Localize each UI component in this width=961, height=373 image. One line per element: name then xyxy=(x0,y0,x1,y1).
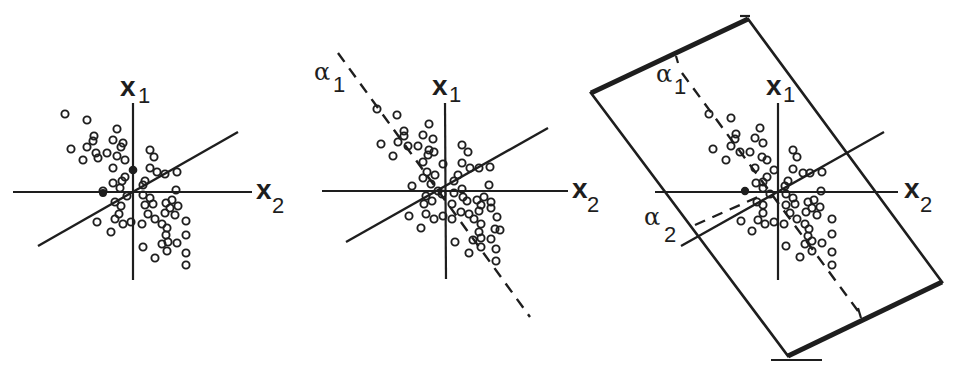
panel-2: α 1 x 1 x 2 xyxy=(314,53,599,317)
alpha1-bottom-tick xyxy=(858,308,861,318)
data-points xyxy=(705,110,835,268)
alpha2-label-main: α xyxy=(644,203,660,231)
panel-1: x 1 x 2 xyxy=(13,71,284,280)
alpha1-label-sub: 1 xyxy=(674,74,686,99)
oblique-line xyxy=(346,128,548,242)
alpha1-label-sub: 1 xyxy=(333,72,345,97)
x1-label-main: x xyxy=(432,70,448,101)
x1-axis-label: x 1 xyxy=(120,71,150,108)
x2-label-main: x xyxy=(904,173,920,204)
x1-axis-label: x 1 xyxy=(432,70,461,107)
x2-label-main: x xyxy=(256,174,272,205)
x1-label-main: x xyxy=(120,71,136,102)
figure-canvas: x 1 x 2 xyxy=(0,0,961,373)
x2-label-sub: 2 xyxy=(587,192,599,217)
x2-axis-label: x 2 xyxy=(256,174,284,218)
x2-label-sub: 2 xyxy=(920,192,932,217)
panel-3: α 1 α 2 x 1 x 2 xyxy=(591,16,942,360)
x1-label-sub: 1 xyxy=(783,82,795,107)
x1-label-sub: 1 xyxy=(449,82,461,107)
figure: x 1 x 2 xyxy=(0,0,961,373)
alpha2-label: α 2 xyxy=(644,203,676,247)
x2-axis-label: x 2 xyxy=(572,173,599,217)
data-points xyxy=(373,105,503,264)
data-points xyxy=(61,110,189,268)
alpha2-label-sub: 2 xyxy=(664,222,676,247)
x2-axis-label: x 2 xyxy=(904,173,932,217)
x1-label-main: x xyxy=(766,70,782,101)
rectangle-bottom-edge xyxy=(788,282,942,356)
x1-label-sub: 1 xyxy=(138,83,150,108)
alpha1-label: α 1 xyxy=(656,60,686,99)
alpha1-top-tick xyxy=(676,56,678,63)
alpha1-label-main: α xyxy=(314,58,330,86)
x2-label-sub: 2 xyxy=(272,193,284,218)
alpha1-label-main: α xyxy=(656,60,672,88)
x2-label-main: x xyxy=(572,173,588,204)
alpha1-label: α 1 xyxy=(314,58,345,97)
